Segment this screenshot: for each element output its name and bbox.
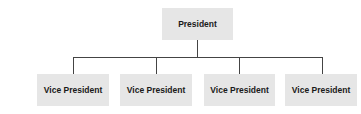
vice-president-label: Vice President [292,85,350,95]
president-label: President [178,19,217,29]
vice-president-label: Vice President [127,85,185,95]
connector-drop-2 [156,57,157,74]
vice-president-box-4: Vice President [285,74,357,106]
vice-president-label: Vice President [210,85,268,95]
connector-drop-3 [239,57,240,74]
vice-president-box-2: Vice President [120,74,192,106]
connector-root-vertical [197,40,198,57]
connector-drop-4 [322,57,323,74]
president-box: President [162,8,233,40]
connector-drop-1 [73,57,74,74]
vice-president-label: Vice President [44,85,102,95]
connector-horizontal [73,57,323,58]
vice-president-box-1: Vice President [37,74,109,106]
vice-president-box-3: Vice President [204,74,275,106]
